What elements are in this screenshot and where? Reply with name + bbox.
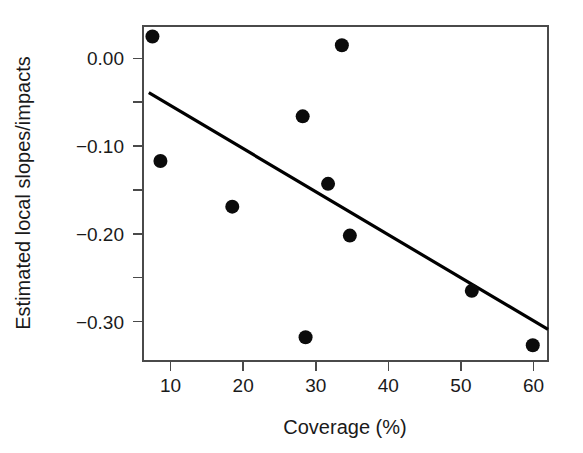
regression-trendline [149,93,548,330]
scatter-plot: 102030405060 0.00−0.10−0.20−0.30 Coverag… [0,0,583,453]
y-tick-label--0_1: −0.10 [76,136,124,157]
x-tick-label-50: 50 [450,375,471,396]
x-tick-label-60: 60 [523,375,544,396]
x-axis-ticks [171,361,534,371]
plot-frame [143,26,548,361]
data-point [299,330,313,344]
data-point [153,154,167,168]
data-point [526,338,540,352]
y-axis-tick-labels: 0.00−0.10−0.20−0.30 [76,48,124,332]
data-point [343,229,357,243]
data-point [335,38,349,52]
y-tick-label-0: 0.00 [87,48,124,69]
y-tick-label--0_3: −0.30 [76,312,124,333]
data-point [225,200,239,214]
x-tick-label-10: 10 [160,375,181,396]
y-axis-ticks [133,58,143,321]
data-point [296,109,310,123]
chart-figure: 102030405060 0.00−0.10−0.20−0.30 Coverag… [0,0,583,453]
data-point [145,30,159,44]
data-point [321,177,335,191]
data-point [465,284,479,298]
y-tick-label--0_2: −0.20 [76,224,124,245]
data-point-group [145,30,539,353]
x-axis-title: Coverage (%) [283,416,406,438]
x-tick-label-20: 20 [233,375,254,396]
y-axis-title: Estimated local slopes/impacts [12,56,34,329]
x-tick-label-30: 30 [305,375,326,396]
x-axis-tick-labels: 102030405060 [160,375,544,396]
x-tick-label-40: 40 [378,375,399,396]
